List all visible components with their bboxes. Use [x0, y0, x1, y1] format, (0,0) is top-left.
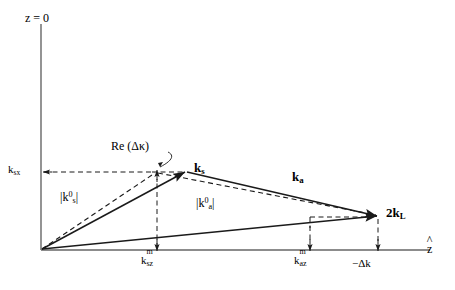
- kaz-tick-label: kmaz: [294, 255, 300, 266]
- 2kL-vector-label: 2kL: [386, 206, 406, 219]
- delta-k-tick-label: −Δk: [352, 258, 371, 269]
- ksz-tick-label: kmsz: [141, 255, 147, 266]
- ks-vector-label: ks: [194, 161, 205, 174]
- vector-diagram-figure: z = 0 z ksx ks ka 2kL |k0s| |k0a| kmsz k…: [0, 0, 455, 290]
- re-dkappa-leader: [160, 152, 172, 167]
- ka0-magnitude-label: |k0a|: [196, 197, 215, 209]
- z-hat-glyph: z: [427, 243, 432, 255]
- re-delta-kappa-label: Re (Δκ): [111, 140, 149, 152]
- ksx-tick-label: ksx: [8, 164, 20, 175]
- ka-vector-label: ka: [292, 170, 304, 183]
- ks0-magnitude-label: |k0s|: [60, 191, 78, 203]
- ka-vector: [187, 172, 377, 216]
- kL-vector: [42, 216, 377, 249]
- z-zero-label: z = 0: [25, 12, 49, 24]
- ks0-dashed-vector: [42, 173, 155, 249]
- diagram-canvas: [0, 0, 455, 290]
- z-hat-axis-label: z: [427, 243, 432, 255]
